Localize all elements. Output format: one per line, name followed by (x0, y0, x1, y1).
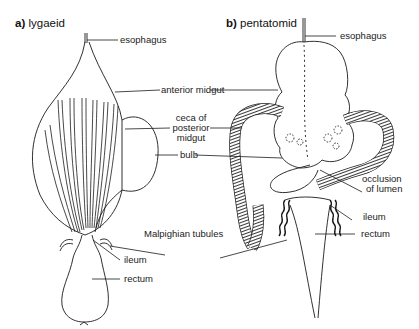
label-ileum-a: ileum (124, 255, 147, 265)
label-bulb: bulb (180, 150, 198, 160)
label-ileum-b: ileum (363, 212, 386, 222)
pentatomid-gut (270, 18, 353, 318)
pentatomid-leaders (195, 36, 362, 258)
gut-diagram (0, 0, 419, 329)
label-ceca-of-posterior-midgut: ceca of posterior midgut (171, 113, 211, 143)
label-rectum-a: rectum (124, 274, 153, 284)
panel-b-title: b) pentatomid (226, 17, 297, 29)
label-esophagus-b: esophagus (340, 31, 386, 41)
label-occlusion-of-lumen: occlusion of lumen (362, 174, 402, 194)
label-esophagus-a: esophagus (120, 35, 166, 45)
panel-a-title: a) lygaeid (15, 17, 65, 29)
pentatomid-malpighian (279, 200, 341, 236)
label-rectum-b: rectum (361, 229, 390, 239)
label-malpighian-tubules: Malpighian tubules (144, 229, 223, 239)
label-anterior-midgut: anterior midgut (161, 85, 224, 95)
